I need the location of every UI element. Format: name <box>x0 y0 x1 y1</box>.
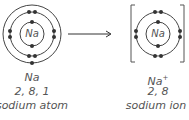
ion-charge: + <box>163 74 169 82</box>
ion-config-label: 2, 8 <box>126 86 189 98</box>
arrow <box>68 31 111 37</box>
atom-nucleus-symbol: Na <box>22 28 42 40</box>
ion-name-label: sodium ion <box>121 100 189 112</box>
ion-nucleus-symbol: Na <box>148 28 168 40</box>
atom-name-label: sodium atom <box>0 100 69 112</box>
atom-config-label: 2, 8, 1 <box>0 86 64 98</box>
atom-symbol-label: Na <box>0 72 64 84</box>
